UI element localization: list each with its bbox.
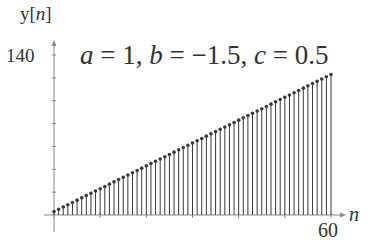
stem-marker (126, 173, 130, 177)
stem-marker (311, 82, 315, 86)
stem-marker (103, 185, 107, 189)
stem-marker (223, 125, 227, 129)
stem-marker (278, 98, 282, 102)
stem-marker (205, 134, 209, 138)
stem-marker (61, 205, 65, 209)
stem-marker (186, 143, 190, 147)
stem-marker (108, 182, 112, 186)
stem-marker (52, 210, 56, 214)
stem-marker (121, 175, 125, 179)
stem-marker (260, 107, 264, 111)
stem-marker (117, 178, 121, 182)
stem-marker (71, 201, 75, 205)
stem-marker (131, 171, 135, 175)
stem-marker (320, 77, 324, 81)
stem-marker (145, 164, 149, 168)
stem-marker (283, 95, 287, 99)
stem-marker (218, 127, 222, 131)
stem-marker (214, 130, 218, 134)
x-axis-arrow-icon (340, 213, 346, 218)
stem-marker (85, 194, 89, 198)
stem-marker (297, 89, 301, 93)
y-axis-label: y[n] (20, 3, 52, 25)
stem-marker (200, 137, 204, 141)
stem-marker (140, 166, 144, 170)
stem-marker (57, 207, 61, 211)
y-axis-arrow-icon (52, 40, 57, 46)
stem-marker (329, 73, 333, 77)
stem-marker (228, 123, 232, 127)
stem-marker (255, 109, 259, 113)
stem-marker (241, 116, 245, 120)
stem-plot (0, 0, 382, 252)
stem-marker (89, 191, 93, 195)
stem-marker (246, 114, 250, 118)
stem-marker (237, 118, 241, 122)
stem-marker (325, 75, 329, 79)
stem-marker (251, 111, 255, 115)
stem-marker (154, 159, 158, 163)
stem-marker (306, 84, 310, 88)
stem-marker (80, 196, 84, 200)
stem-marker (209, 132, 213, 136)
stem-marker (302, 86, 306, 90)
stem-marker (98, 187, 102, 191)
stem-marker (195, 139, 199, 143)
stem-marker (315, 79, 319, 83)
stem-marker (181, 146, 185, 150)
stem-marker (135, 169, 139, 173)
stem-marker (75, 198, 79, 202)
stem-marker (177, 148, 181, 152)
y-tick-label-140: 140 (6, 45, 35, 67)
stem-marker (163, 155, 167, 159)
stem-marker (288, 93, 292, 97)
stem-marker (168, 153, 172, 157)
stem-marker (172, 150, 176, 154)
stem-marker (66, 203, 70, 207)
x-axis-label: n (349, 203, 359, 226)
stem-marker (158, 157, 162, 161)
x-tick-label-60: 60 (318, 219, 338, 242)
stem-marker (94, 189, 98, 193)
stem-marker (292, 91, 296, 95)
stem-marker (265, 105, 269, 109)
stem-marker (112, 180, 116, 184)
stem-marker (232, 121, 236, 125)
stem-marker (149, 162, 153, 166)
stem-marker (191, 141, 195, 145)
stems (52, 73, 333, 215)
stem-marker (269, 102, 273, 106)
stem-marker (274, 100, 278, 104)
chart-title: a = 1, b = −1.5, c = 0.5 (80, 40, 328, 71)
